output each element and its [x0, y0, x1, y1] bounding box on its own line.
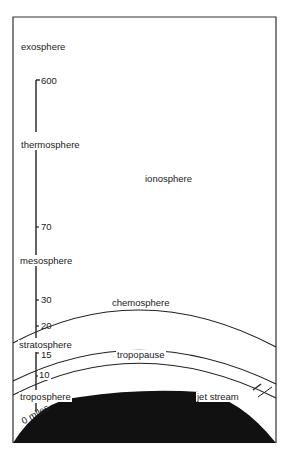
- scale-tick-10: 10: [38, 370, 51, 380]
- scale-tick-20: 20: [40, 321, 53, 331]
- region-chemosphere: chemosphere: [111, 298, 171, 308]
- region-ionosphere: ionosphere: [144, 174, 193, 184]
- scale-tick-600: 600: [40, 76, 58, 86]
- scale-tick-70: 70: [40, 222, 53, 232]
- scale-tick-15: 15: [40, 350, 53, 360]
- layer-thermosphere: thermosphere: [20, 140, 81, 150]
- layer-troposphere: troposphere: [19, 392, 72, 402]
- region-jet-stream: jet stream: [196, 392, 240, 402]
- region-tropopause: tropopause: [116, 350, 166, 360]
- layer-mesosphere: mesosphere: [19, 256, 73, 266]
- scale-tick-30: 30: [40, 295, 53, 305]
- layer-exosphere: exosphere: [20, 42, 66, 52]
